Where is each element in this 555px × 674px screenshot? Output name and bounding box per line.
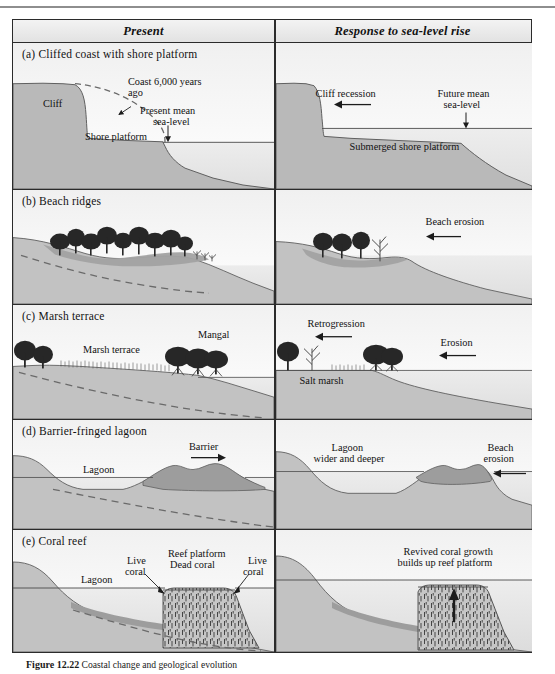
label-submerged-shore-platform: Submerged shore platform	[350, 141, 460, 152]
diagram-b-response	[276, 190, 532, 304]
figure-caption: Figure 12.22 Coastal change and geologic…	[26, 659, 546, 671]
label-cliff: Cliff	[43, 98, 62, 109]
row-title-b: Beach ridges	[39, 195, 101, 207]
label-cliff-recession: Cliff recession	[316, 88, 376, 99]
label-salt-marsh: Salt marsh	[300, 375, 344, 386]
label-coast-6000-years: Coast 6,000 years	[128, 76, 202, 87]
label-marsh-terrace: Marsh terrace	[83, 344, 140, 355]
label-mangal: Mangal	[198, 329, 229, 340]
label-dead-coral: Dead coral	[170, 559, 215, 570]
diagram-b-present	[13, 190, 274, 304]
label-lagoon-wider-2: wider and deeper	[314, 453, 385, 464]
row-marker-c: (c)	[22, 310, 35, 322]
label-live-coral-right: Live	[248, 555, 267, 566]
label-reef-platform: Reef platform	[168, 548, 225, 559]
table-row: (e) Coral reef	[13, 530, 531, 652]
label-lagoon-wider: Lagoon	[332, 442, 363, 453]
label-shore-platform: Shore platform	[85, 131, 147, 142]
figure-caption-text: Coastal change and geological evolution	[82, 659, 238, 670]
table-row: (c) Marsh terrace	[13, 305, 531, 420]
panel-e-response: Revived coral growth builds up reef plat…	[276, 530, 532, 652]
label-live-coral-left-2: coral	[125, 566, 146, 577]
label-revived-coral-growth: Revived coral growth	[404, 546, 493, 557]
panel-e-present: Lagoon Live coral Reef platform Dead cor…	[13, 530, 274, 652]
label-retrogression: Retrogression	[308, 318, 365, 329]
table-row: (a) Cliffed coast with shore platform	[13, 43, 531, 190]
label-erosion: Erosion	[441, 337, 473, 348]
label-barrier: Barrier	[189, 441, 218, 452]
table-row: (d) Barrier-fringed lagoon	[13, 420, 531, 530]
label-coast-ago: ago	[128, 87, 143, 98]
panel-d-response: Lagoon wider and deeper Beach erosion	[276, 420, 532, 529]
panel-b-response: Beach erosion	[276, 190, 532, 304]
panel-a-present: Cliff Coast 6,000 years ago Shore platfo…	[13, 43, 274, 189]
column-header-present: Present	[13, 20, 274, 43]
row-marker-a: (a)	[22, 48, 35, 60]
panel-c-response: Retrogression Erosion Salt marsh	[276, 305, 532, 419]
diagram-a-response	[276, 43, 532, 189]
diagram-c-present	[13, 305, 274, 419]
label-live-coral-left: Live	[127, 555, 146, 566]
diagram-e-present	[13, 530, 274, 652]
row-label-e: (e) Coral reef	[22, 535, 87, 547]
label-revived-coral-growth-2: builds up reef platform	[398, 557, 493, 568]
label-live-coral-right-2: coral	[243, 566, 264, 577]
label-lagoon-e: Lagoon	[81, 574, 112, 585]
label-beach-erosion-d2: erosion	[484, 453, 514, 464]
label-beach-erosion-d: Beach	[488, 442, 514, 453]
row-marker-b: (b)	[22, 195, 36, 207]
row-label-b: (b) Beach ridges	[22, 195, 101, 207]
row-title-d: Barrier-fringed lagoon	[39, 425, 147, 437]
row-title-c: Marsh terrace	[38, 310, 104, 322]
label-future-mean: Future mean	[438, 88, 490, 99]
table-header-row: Present Response to sea-level rise	[13, 20, 531, 43]
label-present-sea-level: sea-level	[153, 116, 190, 127]
panel-b-present	[13, 190, 274, 304]
diagram-d-response	[276, 420, 532, 529]
top-rule	[0, 6, 555, 8]
coastal-response-table: Present Response to sea-level rise (a) C…	[12, 19, 532, 653]
row-marker-e: (e)	[22, 535, 35, 547]
row-marker-d: (d)	[22, 425, 36, 437]
column-header-response: Response to sea-level rise	[274, 20, 531, 43]
row-title-a: Cliffed coast with shore platform	[38, 48, 197, 60]
label-future-sea-level: sea-level	[444, 99, 481, 110]
row-label-d: (d) Barrier-fringed lagoon	[22, 425, 147, 437]
row-label-a: (a) Cliffed coast with shore platform	[22, 48, 198, 60]
panel-c-present: Marsh terrace Mangal	[13, 305, 274, 419]
figure-caption-label: Figure 12.22	[26, 659, 79, 670]
label-beach-erosion: Beach erosion	[426, 216, 485, 227]
label-present-mean: Present mean	[140, 105, 195, 116]
table-row: (b) Beach ridges	[13, 190, 531, 305]
figure-root: Present Response to sea-level rise (a) C…	[0, 0, 555, 674]
label-lagoon: Lagoon	[83, 464, 114, 475]
panel-a-response: Cliff recession Future mean sea-level Su…	[276, 43, 532, 189]
row-title-e: Coral reef	[38, 535, 86, 547]
row-label-c: (c) Marsh terrace	[22, 310, 105, 322]
